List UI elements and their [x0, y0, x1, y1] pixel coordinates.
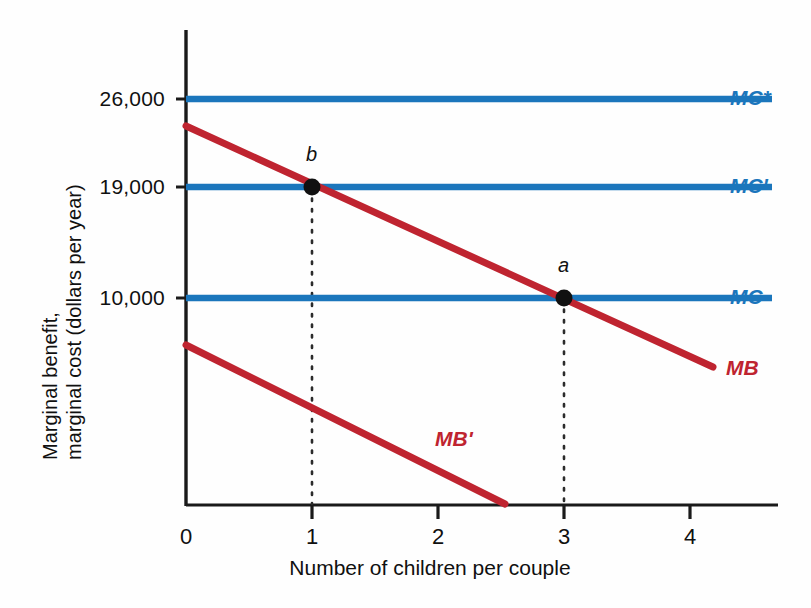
x-axis-title: Number of children per couple — [230, 556, 630, 580]
curve-mb — [186, 126, 713, 367]
y-axis-title-line-2: marginal cost (dollars per year) — [62, 184, 86, 460]
x-axis-tick-label-4: 4 — [670, 524, 710, 550]
y-axis-tick-label-10000: 10,000 — [100, 286, 165, 310]
point-label-b: b — [306, 143, 317, 166]
curve-label-mc: MC — [730, 285, 763, 309]
y-axis-title: Marginal benefit, marginal cost (dollars… — [38, 184, 87, 460]
x-axis-tick-label-3: 3 — [544, 524, 584, 550]
economics-chart-figure: 26,000 19,000 10,000 0 1 2 3 4 Number of… — [0, 0, 811, 608]
x-axis-tick-label-1: 1 — [292, 524, 332, 550]
curve-mb-prime — [186, 345, 505, 504]
curve-label-mc-star: MC* — [730, 86, 771, 110]
y-axis-tick-label-26000: 26,000 — [100, 87, 165, 111]
curve-label-mc-prime: MC' — [730, 174, 768, 198]
x-axis-tick-label-2: 2 — [418, 524, 458, 550]
x-axis-tick-label-0: 0 — [166, 524, 206, 550]
point-marker-a — [556, 290, 573, 307]
curve-label-mb: MB — [726, 356, 759, 380]
point-label-a: a — [558, 254, 569, 277]
point-marker-b — [304, 179, 321, 196]
curve-label-mb-prime: MB' — [435, 427, 473, 451]
y-axis-title-line-1: Marginal benefit, — [38, 184, 62, 460]
y-axis-tick-label-19000: 19,000 — [100, 175, 165, 199]
